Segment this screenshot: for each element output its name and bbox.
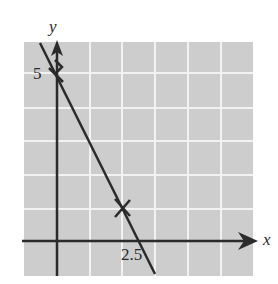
y-axis-label: y [49,17,57,37]
x-intercept-label: 2.5 [121,245,142,265]
x-axis-label: x [263,230,271,250]
y-intercept-label: 5 [33,64,42,84]
graph-canvas [0,0,278,284]
